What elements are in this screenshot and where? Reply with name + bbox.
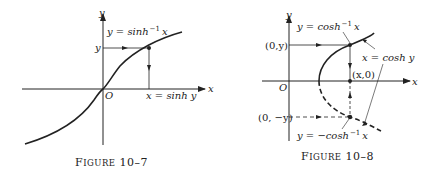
right-arrow-icon (122, 46, 128, 50)
point-top-label: (0,y) (265, 40, 288, 51)
up-arrow-icon (348, 92, 352, 98)
y-axis-label: y (98, 7, 105, 18)
y-marker-label: y (94, 42, 101, 53)
down-arrow-icon (147, 65, 151, 71)
upper-label-sup: −1 (342, 20, 352, 28)
caption-number: 10–8 (346, 150, 375, 163)
point-axis-label: (x,0) (352, 69, 375, 80)
top-point (348, 43, 352, 47)
x-axis-label: x (412, 76, 418, 87)
figure-10-8: y x O (0,y) (x,0) (0, −y) y = cosh−1x x … (258, 9, 418, 163)
caption-small: IGURE (83, 158, 115, 168)
origin-label: O (105, 90, 113, 101)
figure-caption: FIGURE10–7 (75, 156, 148, 169)
x-axis-label: x (208, 83, 214, 94)
right-arrow-icon (316, 115, 322, 119)
lower-branch-label: y = −cosh−1x (296, 129, 368, 141)
y-axis-label: y (285, 9, 292, 20)
x-marker-label: x = sinh y (146, 90, 197, 101)
figures-canvas: y x O y y = sinh−1x x = sinh y FIGURE10–… (0, 0, 436, 173)
lower-label-rhs: x (362, 130, 368, 141)
curve-point (147, 46, 151, 50)
lower-label-sup: −1 (350, 129, 360, 137)
origin-label: O (279, 82, 287, 93)
caption-prefix: F (301, 150, 309, 163)
curve-label-lhs: y = sinh (106, 26, 149, 37)
upper-branch-label: y = cosh−1x (296, 20, 360, 32)
upper-label-lhs: y = cosh (296, 21, 341, 32)
caption-small: IGURE (309, 152, 341, 162)
bottom-point (348, 115, 352, 119)
curve-label: x = cosh y (362, 52, 415, 63)
lower-label-lhs: y = −cosh (296, 130, 349, 141)
curve-label-sup: −1 (150, 25, 160, 33)
curve-label-rhs: x (162, 26, 168, 37)
curve-label: y = sinh−1x (106, 25, 168, 37)
lower-label-leader (342, 119, 349, 129)
right-arrow-icon (316, 43, 322, 47)
figure-10-7: y x O y y = sinh−1x x = sinh y FIGURE10–… (22, 7, 214, 169)
caption-prefix: F (75, 156, 83, 169)
point-bottom-label: (0, −y) (258, 112, 293, 123)
caption-number: 10–7 (120, 156, 149, 169)
figure-caption: FIGURE10–8 (301, 150, 374, 163)
upper-label-rhs: x (354, 21, 360, 32)
upper-label-leader (343, 32, 350, 43)
